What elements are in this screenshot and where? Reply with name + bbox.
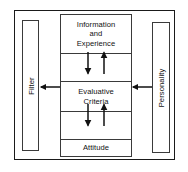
- center-column: Information and Experience Evaluative Cr…: [60, 14, 132, 157]
- personality-label: Personality: [157, 68, 166, 107]
- filter-label: Filter: [26, 77, 35, 94]
- information-experience-box: Information and Experience: [61, 15, 131, 53]
- attitude-label: Attitude: [83, 143, 109, 153]
- eval-line-1: Evaluative: [78, 87, 114, 97]
- evaluative-criteria-label: Evaluative Criteria: [78, 87, 114, 106]
- attitude-line-1: Attitude: [83, 143, 109, 153]
- filter-box: Filter: [22, 20, 39, 151]
- eval-line-2: Criteria: [78, 97, 114, 107]
- info-line-1: Information: [77, 20, 116, 30]
- info-line-3: Experience: [77, 39, 116, 49]
- information-experience-label: Information and Experience: [77, 20, 116, 49]
- evaluative-criteria-box: Evaluative Criteria: [61, 81, 131, 111]
- personality-box: Personality: [152, 22, 170, 153]
- lower-arrow-cell: [61, 111, 131, 139]
- info-line-2: and: [77, 29, 116, 39]
- attitude-box: Attitude: [61, 139, 131, 156]
- attitude-formation-diagram: Filter Personality Information and Exper…: [0, 0, 188, 172]
- upper-arrow-cell: [61, 53, 131, 81]
